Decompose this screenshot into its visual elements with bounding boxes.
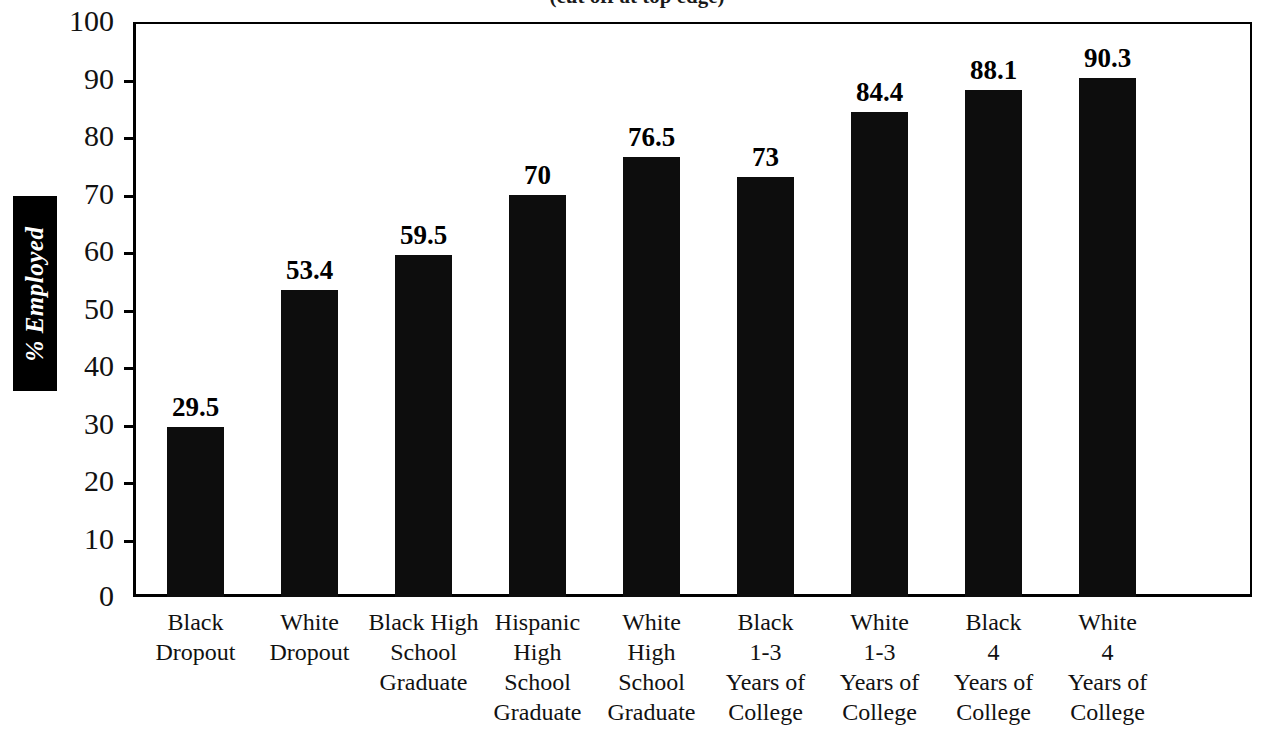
bar [623,157,680,597]
x-axis-category-label: WhiteDropout [253,607,367,667]
category-label-line: Years of [709,667,823,697]
bar [737,177,794,597]
category-label-line: School [595,667,709,697]
y-axis-tick-label: 100 [24,6,114,36]
x-axis-category-label: Black4Years ofCollege [937,607,1051,727]
y-axis-tick-label: 10 [24,524,114,554]
bar-value-label: 88.1 [939,57,1049,84]
category-label-line: Years of [937,667,1051,697]
bar-value-label: 70 [483,162,593,189]
y-axis-tick-label: 80 [24,121,114,151]
y-axis-tick-label: 50 [24,294,114,324]
x-axis-category-label: BlackDropout [139,607,253,667]
y-axis-tick-label: 70 [24,179,114,209]
category-label-line: School [481,667,595,697]
bar [395,255,452,597]
category-label-line: College [709,697,823,727]
x-axis-category-label: Black1-3Years ofCollege [709,607,823,727]
category-label-line: Black [139,607,253,637]
category-label-line: White [595,607,709,637]
bar [851,112,908,597]
bar-value-label: 29.5 [141,394,251,421]
category-label-line: 1-3 [823,637,937,667]
category-label-line: Dropout [253,637,367,667]
bar [509,195,566,598]
category-label-line: 1-3 [709,637,823,667]
bar-value-label: 73 [711,144,821,171]
x-axis-category-label: White4Years ofCollege [1051,607,1165,727]
category-label-line: College [937,697,1051,727]
y-axis-tick-label: 30 [24,409,114,439]
category-label-line: 4 [937,637,1051,667]
category-label-line: Graduate [367,667,481,697]
category-label-line: High [595,637,709,667]
bar [965,90,1022,597]
chart-title-text: (cut off at top edge) [0,0,1274,9]
category-label-line: Black High [367,607,481,637]
bar-value-label: 53.4 [255,257,365,284]
x-axis-category-label: White1-3Years ofCollege [823,607,937,727]
category-label-line: High [481,637,595,667]
y-axis-tick-label: 20 [24,466,114,496]
bar [167,427,224,597]
chart-page: (cut off at top edge) % Employed 1009080… [0,0,1274,738]
category-label-line: Years of [1051,667,1165,697]
bar-value-label: 84.4 [825,79,935,106]
category-label-line: 4 [1051,637,1165,667]
y-axis-tick-label: 60 [24,236,114,266]
category-label-line: Black [937,607,1051,637]
category-label-line: Dropout [139,637,253,667]
bar [1079,78,1136,597]
category-label-line: Years of [823,667,937,697]
category-label-line: Graduate [595,697,709,727]
category-label-line: White [823,607,937,637]
category-label-line: College [1051,697,1165,727]
category-label-line: Hispanic [481,607,595,637]
category-label-line: Black [709,607,823,637]
category-label-line: Graduate [481,697,595,727]
x-axis-category-label: HispanicHighSchoolGraduate [481,607,595,727]
bar-value-label: 59.5 [369,222,479,249]
y-axis-tick-label: 0 [24,581,114,611]
category-label-line: College [823,697,937,727]
bar-value-label: 76.5 [597,124,707,151]
x-axis-category-label: WhiteHighSchoolGraduate [595,607,709,727]
bar-value-label: 90.3 [1053,45,1163,72]
category-label-line: White [253,607,367,637]
category-label-line: School [367,637,481,667]
category-label-line: White [1051,607,1165,637]
y-axis-tick-label: 90 [24,64,114,94]
y-axis-tick-label: 40 [24,351,114,381]
chart-title-clipped: (cut off at top edge) [0,0,1274,12]
bar [281,290,338,597]
x-axis-category-label: Black HighSchoolGraduate [367,607,481,697]
